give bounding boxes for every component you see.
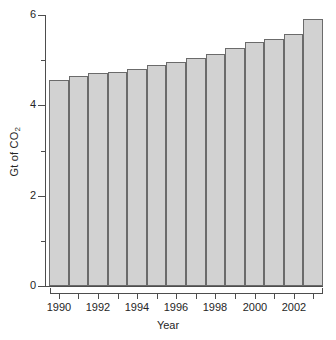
- bar-chart-figure: Gt of CO2 0246 1990199219941996199820002…: [0, 0, 336, 340]
- bar: [69, 76, 89, 286]
- x-tick-label: 2000: [233, 301, 277, 313]
- bar: [303, 19, 323, 286]
- x-tick: [137, 293, 138, 299]
- x-tick: [313, 293, 314, 299]
- bar: [264, 39, 284, 286]
- bar: [108, 72, 128, 286]
- x-tick-label: 1992: [76, 301, 120, 313]
- bar: [284, 34, 304, 286]
- bar: [49, 80, 69, 286]
- x-axis-line: [45, 286, 323, 287]
- x-tick: [274, 293, 275, 299]
- bar: [166, 62, 186, 286]
- bar: [147, 65, 167, 286]
- x-tick: [235, 293, 236, 299]
- x-tick: [59, 293, 60, 299]
- bar: [245, 42, 265, 286]
- x-tick: [118, 293, 119, 299]
- x-tick: [255, 293, 256, 299]
- x-tick: [215, 293, 216, 299]
- x-tick: [176, 293, 177, 299]
- bar: [186, 58, 206, 286]
- x-tick: [196, 293, 197, 299]
- x-tick-label: 1994: [115, 301, 159, 313]
- bar: [127, 69, 147, 286]
- x-tick-label: 1990: [37, 301, 81, 313]
- x-tick: [157, 293, 158, 299]
- bar: [206, 54, 226, 286]
- x-tick: [98, 293, 99, 299]
- x-axis-rail: [50, 293, 322, 294]
- x-tick-label: 1998: [193, 301, 237, 313]
- x-rail-end-cap: [322, 288, 323, 294]
- x-tick: [78, 293, 79, 299]
- x-rail-end-cap: [50, 288, 51, 294]
- bar: [88, 73, 108, 286]
- bar: [225, 48, 245, 286]
- x-tick-label: 2002: [272, 301, 316, 313]
- x-tick-label: 1996: [154, 301, 198, 313]
- x-axis-label: Year: [0, 319, 336, 331]
- x-tick: [294, 293, 295, 299]
